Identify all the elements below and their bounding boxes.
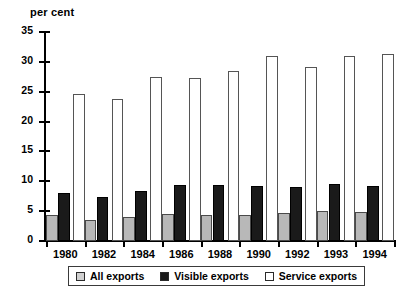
bar-all-1990 <box>239 215 251 241</box>
bar-all-1984 <box>123 217 135 241</box>
legend-swatch-visible-icon <box>160 272 169 281</box>
x-axis-label-1986: 1986 <box>162 248 201 260</box>
bar-visible-1982 <box>97 197 109 241</box>
bar-group-1980 <box>46 32 85 241</box>
bar-service-1986 <box>189 78 201 241</box>
y-tick-label-25: 25 <box>21 84 33 96</box>
legend-label-service: Service exports <box>279 270 357 282</box>
bar-group-1990 <box>239 32 278 241</box>
x-axis-label-1982: 1982 <box>85 248 124 260</box>
x-tick-1994 <box>355 240 357 247</box>
y-tick-label-15: 15 <box>21 143 33 155</box>
x-axis-label-1993: 1993 <box>317 248 356 260</box>
x-tick-1992 <box>278 240 280 247</box>
x-tick-1993 <box>317 240 319 247</box>
y-tick-label-35: 35 <box>21 24 33 36</box>
x-axis-label-1990: 1990 <box>239 248 278 260</box>
y-tick-label-10: 10 <box>21 173 33 185</box>
y-tick-label-5: 5 <box>27 203 33 215</box>
bar-visible-1984 <box>135 191 147 241</box>
bar-all-1980 <box>46 215 58 241</box>
bar-service-1980 <box>73 94 85 241</box>
bar-all-1994 <box>355 212 367 241</box>
x-tick-1988 <box>201 240 203 247</box>
legend-swatch-service-icon <box>265 272 274 281</box>
bar-group-1986 <box>162 32 201 241</box>
bar-service-1994 <box>382 54 394 242</box>
bar-group-1988 <box>201 32 240 241</box>
bar-all-1993 <box>317 211 329 241</box>
bar-all-1988 <box>201 215 213 241</box>
y-tick-label-20: 20 <box>21 114 33 126</box>
bar-service-1992 <box>305 67 317 241</box>
bar-visible-1990 <box>251 186 263 241</box>
y-tick-label-30: 30 <box>21 54 33 66</box>
bar-service-1988 <box>228 71 240 241</box>
bar-service-1982 <box>112 99 124 241</box>
bar-service-1993 <box>344 56 356 241</box>
bar-all-1982 <box>85 220 97 241</box>
x-axis-label-1988: 1988 <box>201 248 240 260</box>
bar-group-1984 <box>123 32 162 241</box>
x-axis-label-1992: 1992 <box>278 248 317 260</box>
y-tick-label-0: 0 <box>27 233 33 245</box>
legend-label-visible: Visible exports <box>174 270 249 282</box>
legend-label-all: All exports <box>90 270 144 282</box>
bar-visible-1988 <box>213 185 225 241</box>
bar-visible-1992 <box>290 187 302 241</box>
x-axis-label-1994: 1994 <box>355 248 394 260</box>
bar-all-1986 <box>162 214 174 241</box>
x-tick-1982 <box>85 240 87 247</box>
bar-group-1994 <box>355 32 394 241</box>
bar-visible-1993 <box>329 184 341 241</box>
x-axis-label-1984: 1984 <box>123 248 162 260</box>
x-tick-end <box>394 240 396 247</box>
bar-group-1993 <box>317 32 356 241</box>
plot-area: 05101520253035 <box>46 32 394 241</box>
legend-item-visible[interactable]: Visible exports <box>160 270 249 282</box>
bar-service-1984 <box>150 77 162 241</box>
bar-group-1992 <box>278 32 317 241</box>
bar-visible-1986 <box>174 185 186 241</box>
x-tick-1986 <box>162 240 164 247</box>
x-tick-1984 <box>123 240 125 247</box>
y-axis-title: per cent <box>30 6 74 18</box>
chart-legend: All exportsVisible exportsService export… <box>68 266 365 286</box>
bar-visible-1980 <box>58 193 70 241</box>
bar-all-1992 <box>278 213 290 241</box>
legend-item-service[interactable]: Service exports <box>265 270 357 282</box>
legend-item-all[interactable]: All exports <box>76 270 144 282</box>
bar-group-1982 <box>85 32 124 241</box>
chart-container: per cent 05101520253035 1980198219841986… <box>0 0 410 295</box>
x-tick-1980 <box>46 240 48 247</box>
legend-swatch-all-icon <box>76 272 85 281</box>
x-axis-label-1980: 1980 <box>46 248 85 260</box>
bar-visible-1994 <box>367 186 379 241</box>
bar-service-1990 <box>266 56 278 241</box>
x-tick-1990 <box>239 240 241 247</box>
